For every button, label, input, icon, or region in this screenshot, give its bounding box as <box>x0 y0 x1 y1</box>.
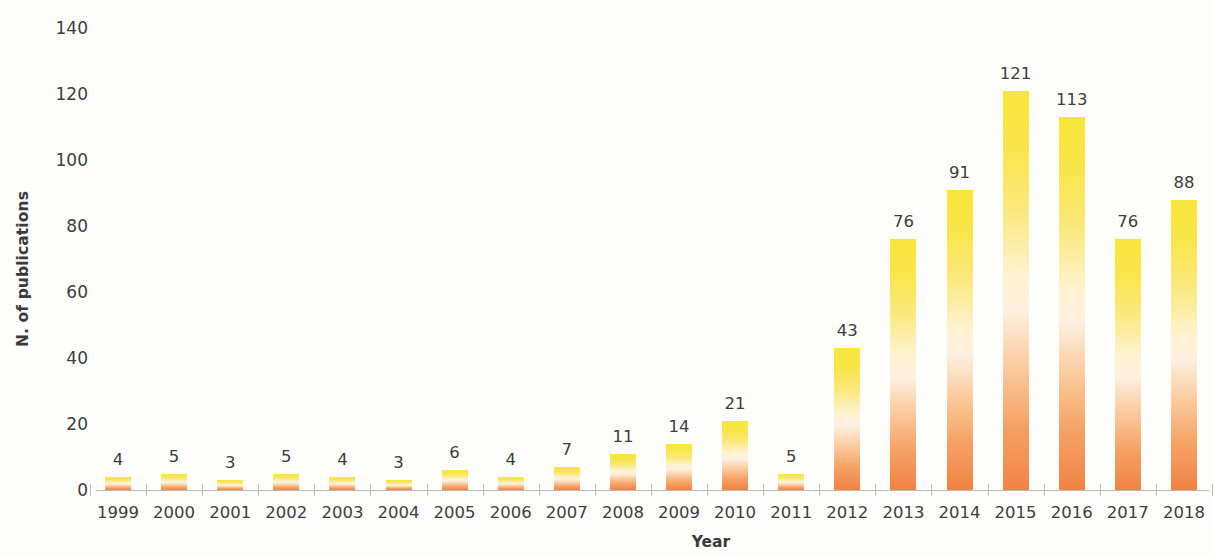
x-tick-label: 2012 <box>817 505 877 522</box>
x-axis-tick <box>819 484 820 496</box>
bar-value-label: 76 <box>1098 214 1158 231</box>
bar <box>554 467 580 490</box>
bar <box>217 480 243 490</box>
bar-value-label: 11 <box>593 429 653 446</box>
bar <box>890 239 916 490</box>
bar-value-label: 113 <box>1042 92 1102 109</box>
y-tick-label: 120 <box>28 86 88 103</box>
bar-value-label: 76 <box>873 214 933 231</box>
x-tick-label: 2004 <box>369 505 429 522</box>
x-tick-label: 2015 <box>986 505 1046 522</box>
bar <box>947 190 973 490</box>
y-tick-label: 0 <box>28 482 88 499</box>
x-axis-tick <box>1212 484 1213 496</box>
x-tick-label: 2011 <box>761 505 821 522</box>
bar-value-label: 91 <box>930 165 990 182</box>
x-tick-label: 1999 <box>88 505 148 522</box>
bar <box>1115 239 1141 490</box>
x-axis-tick <box>595 484 596 496</box>
y-tick-label: 100 <box>28 152 88 169</box>
bar <box>386 480 412 490</box>
bar <box>498 477 524 490</box>
bar <box>610 454 636 490</box>
x-tick-label: 2000 <box>144 505 204 522</box>
bar <box>161 474 187 491</box>
x-axis-tick <box>314 484 315 496</box>
bar <box>1003 91 1029 490</box>
bar <box>666 444 692 490</box>
x-axis-tick <box>931 484 932 496</box>
x-tick-label: 2017 <box>1098 505 1158 522</box>
bar <box>442 470 468 490</box>
bar-value-label: 4 <box>481 452 541 469</box>
bar <box>1059 117 1085 490</box>
x-axis-tick <box>875 484 876 496</box>
bar-value-label: 4 <box>312 452 372 469</box>
bar-value-label: 43 <box>817 323 877 340</box>
plot-area: Year 41999520003200152002420033200462005… <box>96 0 1209 556</box>
bar <box>105 477 131 490</box>
y-tick-label: 60 <box>28 284 88 301</box>
x-axis-tick <box>202 484 203 496</box>
x-tick-label: 2008 <box>593 505 653 522</box>
x-tick-label: 2016 <box>1042 505 1102 522</box>
x-tick-label: 2007 <box>537 505 597 522</box>
x-axis-tick <box>1100 484 1101 496</box>
x-axis-tick <box>707 484 708 496</box>
x-tick-label: 2006 <box>481 505 541 522</box>
bar-value-label: 21 <box>705 396 765 413</box>
bar-value-label: 5 <box>144 449 204 466</box>
x-axis-title: Year <box>651 533 771 551</box>
x-axis-tick <box>539 484 540 496</box>
bar-value-label: 6 <box>425 445 485 462</box>
x-axis-tick <box>427 484 428 496</box>
x-axis-tick <box>1156 484 1157 496</box>
y-tick-label: 40 <box>28 350 88 367</box>
x-tick-label: 2003 <box>312 505 372 522</box>
bar <box>329 477 355 490</box>
x-axis-tick <box>988 484 989 496</box>
x-tick-label: 2009 <box>649 505 709 522</box>
bar-value-label: 14 <box>649 419 709 436</box>
x-axis-tick <box>1044 484 1045 496</box>
x-axis-tick <box>370 484 371 496</box>
bar <box>778 474 804 491</box>
x-tick-label: 2014 <box>930 505 990 522</box>
x-axis-tick <box>90 484 91 496</box>
bar-value-label: 7 <box>537 442 597 459</box>
bar-value-label: 3 <box>369 455 429 472</box>
y-tick-label: 80 <box>28 218 88 235</box>
x-tick-label: 2013 <box>873 505 933 522</box>
bar-value-label: 3 <box>200 455 260 472</box>
x-axis-tick <box>146 484 147 496</box>
bar-value-label: 88 <box>1154 175 1214 192</box>
x-axis-line <box>96 490 1209 491</box>
bar-value-label: 5 <box>256 449 316 466</box>
x-tick-label: 2010 <box>705 505 765 522</box>
bar-value-label: 121 <box>986 66 1046 83</box>
x-tick-label: 2018 <box>1154 505 1214 522</box>
bar <box>1171 200 1197 490</box>
bar <box>722 421 748 490</box>
x-axis-tick <box>258 484 259 496</box>
x-axis-tick <box>651 484 652 496</box>
y-tick-label: 140 <box>28 20 88 37</box>
x-tick-label: 2002 <box>256 505 316 522</box>
y-axis: 020406080100120140 <box>0 0 88 556</box>
bar-value-label: 4 <box>88 452 148 469</box>
x-axis-tick <box>483 484 484 496</box>
x-axis-tick <box>763 484 764 496</box>
x-tick-label: 2005 <box>425 505 485 522</box>
bar <box>273 474 299 491</box>
bar-value-label: 5 <box>761 449 821 466</box>
x-tick-label: 2001 <box>200 505 260 522</box>
bar <box>834 348 860 490</box>
y-tick-label: 20 <box>28 416 88 433</box>
